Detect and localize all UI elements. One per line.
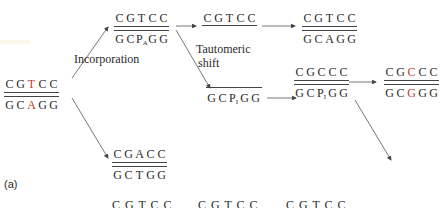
base: T bbox=[324, 12, 335, 24]
base-analog: PI bbox=[316, 87, 327, 101]
base: C bbox=[335, 12, 346, 24]
base: A bbox=[324, 33, 335, 45]
base-highlight: T bbox=[26, 78, 37, 90]
strand-replicate-top: CGTCC bbox=[202, 12, 257, 26]
bottom-sequence-1: C G T C C bbox=[112, 198, 173, 208]
strand-bottom: GCAGG bbox=[302, 33, 357, 46]
duplex-start: CGTCC GCAGG bbox=[4, 78, 59, 112]
base: G bbox=[156, 169, 167, 181]
base: C bbox=[305, 87, 316, 99]
strand-top: CGACC bbox=[112, 148, 167, 161]
base: C bbox=[15, 99, 26, 111]
duplex-mutant: CGCCC GCGGG bbox=[384, 66, 439, 100]
double-bond bbox=[114, 26, 169, 31]
base: G bbox=[206, 92, 217, 104]
base: G bbox=[239, 92, 250, 104]
strand-top: CGTCC bbox=[114, 12, 169, 25]
base: C bbox=[417, 66, 428, 78]
base: C bbox=[48, 78, 59, 90]
panel-label: (a) bbox=[4, 178, 17, 190]
single-bond bbox=[202, 25, 257, 26]
strand-bottom: GCPIGG bbox=[206, 92, 262, 105]
base-highlight: A bbox=[26, 99, 37, 111]
duplex-alt: CGACC GCTGG bbox=[112, 148, 167, 182]
base: G bbox=[294, 87, 305, 99]
base: C bbox=[313, 33, 324, 45]
bottom-sequence-2: C G T C C bbox=[198, 198, 259, 208]
strand-top: CGCCC bbox=[294, 66, 349, 79]
single-bond bbox=[206, 87, 262, 88]
base: G bbox=[335, 33, 346, 45]
base: G bbox=[48, 99, 59, 111]
strand-top: CGCCC bbox=[384, 66, 439, 79]
double-bond bbox=[294, 80, 349, 85]
base: G bbox=[213, 12, 224, 24]
strand-tautomer: GCPIGG bbox=[206, 87, 262, 105]
base: C bbox=[302, 12, 313, 24]
label-incorporation: Incorporation bbox=[74, 52, 139, 67]
base-highlight: C bbox=[406, 66, 417, 78]
base: G bbox=[15, 78, 26, 90]
bottom-sequence-3: C G T C C bbox=[286, 198, 347, 208]
base: G bbox=[384, 87, 395, 99]
base: G bbox=[37, 99, 48, 111]
strand-top: CGTCC bbox=[4, 78, 59, 91]
base: G bbox=[302, 33, 313, 45]
base: C bbox=[145, 148, 156, 160]
base: C bbox=[428, 66, 439, 78]
label-shift: shift bbox=[198, 56, 219, 71]
base: G bbox=[346, 33, 357, 45]
strand-top: CGTCC bbox=[302, 12, 357, 25]
base: C bbox=[4, 78, 15, 90]
base: T bbox=[136, 12, 147, 24]
base: A bbox=[134, 148, 145, 160]
base: G bbox=[395, 66, 406, 78]
base-analog: PI bbox=[228, 92, 239, 106]
arrow-down bbox=[355, 100, 391, 160]
base: G bbox=[145, 169, 156, 181]
arrow-to-alt bbox=[72, 98, 108, 158]
base-analog: PA bbox=[136, 33, 147, 47]
duplex-mispaired: CGCCC GCPIGG bbox=[294, 66, 349, 100]
base: C bbox=[338, 66, 349, 78]
double-bond bbox=[384, 80, 439, 85]
strand-top: CGTCC bbox=[202, 12, 257, 25]
base: G bbox=[417, 87, 428, 99]
base: C bbox=[327, 66, 338, 78]
base: G bbox=[313, 12, 324, 24]
base: C bbox=[147, 12, 158, 24]
base: C bbox=[346, 12, 357, 24]
base: T bbox=[224, 12, 235, 24]
strand-bottom: GCTGG bbox=[112, 169, 167, 182]
base: G bbox=[114, 33, 125, 45]
base: C bbox=[123, 169, 134, 181]
base: C bbox=[37, 78, 48, 90]
base: G bbox=[327, 87, 338, 99]
strand-bottom: GCGGG bbox=[384, 87, 439, 100]
base: C bbox=[158, 12, 169, 24]
strand-bottom: GCAGG bbox=[4, 99, 59, 112]
base: C bbox=[156, 148, 167, 160]
base: C bbox=[384, 66, 395, 78]
base: C bbox=[217, 92, 228, 104]
double-bond bbox=[4, 92, 59, 97]
base: T bbox=[134, 169, 145, 181]
strand-bottom: GCPAGG bbox=[114, 33, 169, 46]
base: C bbox=[294, 66, 305, 78]
base: C bbox=[125, 33, 136, 45]
double-bond bbox=[302, 26, 357, 31]
base: C bbox=[316, 66, 327, 78]
base: C bbox=[395, 87, 406, 99]
base: C bbox=[114, 12, 125, 24]
base: G bbox=[123, 148, 134, 160]
duplex-normal-result: CGTCC GCAGG bbox=[302, 12, 357, 46]
duplex-incorporated: CGTCC GCPAGG bbox=[114, 12, 169, 46]
base: G bbox=[428, 87, 439, 99]
base-highlight: G bbox=[406, 87, 417, 99]
double-bond bbox=[112, 162, 167, 167]
base: C bbox=[235, 12, 246, 24]
base: G bbox=[250, 92, 261, 104]
base: C bbox=[246, 12, 257, 24]
base: G bbox=[158, 33, 169, 45]
base: G bbox=[338, 87, 349, 99]
